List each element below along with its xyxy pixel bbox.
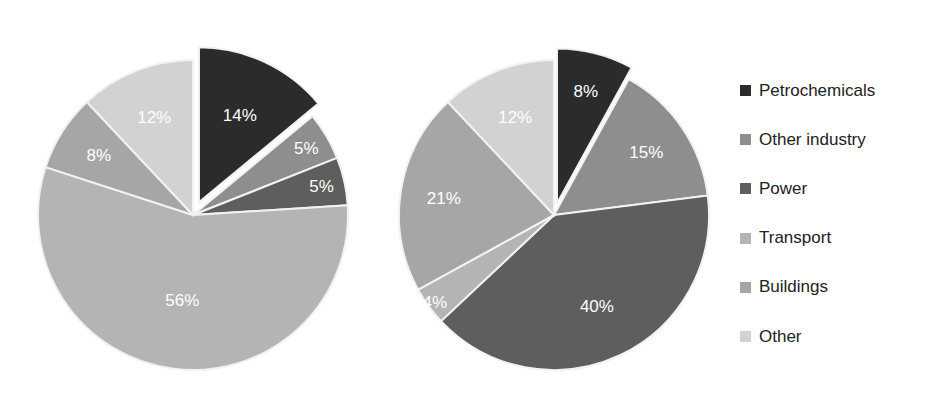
slice-percent-label: 15%: [629, 143, 663, 162]
legend-item-petrochemicals: Petrochemicals: [740, 66, 875, 115]
legend-label: Other: [759, 327, 802, 347]
legend: Petrochemicals Other industry Power Tran…: [740, 66, 875, 361]
legend-label: Transport: [759, 228, 831, 248]
legend-swatch-icon: [740, 85, 751, 96]
legend-item-other: Other: [740, 312, 875, 361]
slice-percent-label: 12%: [137, 108, 171, 127]
slice-percent-label: 14%: [223, 106, 257, 125]
legend-swatch-icon: [740, 331, 751, 342]
slice-percent-label: 8%: [86, 146, 111, 165]
slice-percent-label: 21%: [427, 189, 461, 208]
legend-swatch-icon: [740, 183, 751, 194]
legend-label: Other industry: [759, 130, 866, 150]
slice-percent-label: 40%: [580, 297, 614, 316]
legend-item-transport: Transport: [740, 214, 875, 263]
slice-percent-label: 5%: [294, 139, 319, 158]
slice-percent-label: 5%: [309, 177, 334, 196]
legend-item-other-industry: Other industry: [740, 115, 875, 164]
legend-swatch-icon: [740, 282, 751, 293]
slice-percent-label: 56%: [165, 291, 199, 310]
legend-item-buildings: Buildings: [740, 263, 875, 312]
slice-percent-label: 8%: [574, 82, 599, 101]
pie-chart-right: 8%15%40%4%21%12%: [399, 48, 709, 370]
legend-label: Power: [759, 179, 807, 199]
legend-swatch-icon: [740, 134, 751, 145]
legend-label: Petrochemicals: [759, 81, 875, 101]
pie-chart-left: 14%5%5%56%8%12%: [38, 47, 348, 370]
legend-label: Buildings: [759, 277, 828, 297]
legend-swatch-icon: [740, 233, 751, 244]
slice-percent-label: 4%: [423, 293, 448, 312]
slice-percent-label: 12%: [498, 108, 532, 127]
legend-item-power: Power: [740, 164, 875, 213]
